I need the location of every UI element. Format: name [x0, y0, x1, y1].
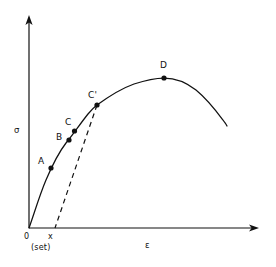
data-point-a [48, 165, 53, 170]
data-point-b [66, 137, 71, 142]
y-axis-label: σ [14, 125, 20, 135]
plot-canvas [0, 0, 276, 267]
data-point-c-prime [94, 102, 99, 107]
data-point-d [161, 75, 166, 80]
data-point-c [72, 128, 77, 133]
point-label-b: B [56, 132, 62, 142]
point-label-c: C [65, 117, 71, 127]
stress-strain-curve [29, 78, 227, 228]
origin-label: 0 [24, 232, 29, 242]
offset-set-label: (set) [31, 243, 50, 253]
stress-strain-figure: σ ε 0 x (set) A B C C' D [0, 0, 276, 267]
point-label-c-prime: C' [88, 90, 97, 100]
unloading-dashed-line [55, 105, 97, 228]
offset-tick-label: x [48, 232, 53, 242]
point-label-a: A [38, 156, 44, 166]
point-label-d: D [160, 60, 167, 70]
x-axis-label: ε [145, 240, 150, 250]
